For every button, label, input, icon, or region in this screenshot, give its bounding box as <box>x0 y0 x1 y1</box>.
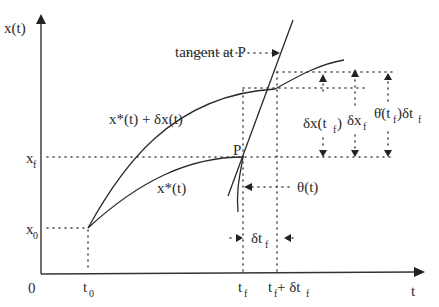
svg-text:δt: δt <box>251 230 263 246</box>
svg-text:θ̇(t: θ̇(t <box>374 105 391 122</box>
dx-tf-down-arrow-icon <box>319 150 327 157</box>
y-axis-label: x(t) <box>4 20 26 37</box>
svg-text:)δt: )δt <box>397 105 414 122</box>
svg-text:δx(t: δx(t <box>303 115 328 132</box>
perturbed-curve <box>88 60 344 228</box>
svg-text:t: t <box>83 279 88 295</box>
svg-text:0: 0 <box>89 288 94 299</box>
tick-tf: t f <box>238 279 248 299</box>
svg-text:t: t <box>268 279 273 295</box>
dxf-down-arrow-icon <box>351 150 359 157</box>
point-p-label: P <box>233 142 241 158</box>
tangent-label: tangent at P <box>175 44 246 60</box>
tangent-arrow-icon <box>272 49 280 57</box>
origin-label: 0 <box>28 280 36 296</box>
x-axis-arrow-icon <box>414 267 425 277</box>
svg-text:+ δt: + δt <box>277 279 301 295</box>
dtf-left-arrow-icon <box>236 234 243 242</box>
tick-x0: x 0 <box>26 221 38 241</box>
theta-dot-label: θ̇(t f )δt f <box>374 105 422 125</box>
svg-text:f: f <box>33 159 37 170</box>
x-axis <box>41 272 416 274</box>
dx-tf-up-arrow-icon <box>319 74 327 82</box>
svg-text:f: f <box>363 121 367 132</box>
svg-text:f: f <box>244 288 248 299</box>
svg-text:f: f <box>306 288 310 299</box>
theta-arrow-icon <box>244 183 252 191</box>
tick-t0: t 0 <box>83 279 94 299</box>
tick-xf: x f <box>26 150 37 170</box>
svg-text:f: f <box>265 239 269 250</box>
theta-dot-up-arrow-icon <box>384 73 392 80</box>
svg-text:f: f <box>418 114 422 125</box>
tick-tf-plus-delta: t f + δt f <box>268 279 310 299</box>
delta-x-tf-label: δx(t f ) <box>303 115 342 135</box>
optimal-curve-label: x*(t) <box>157 180 186 197</box>
theta-label: θ(t) <box>297 179 318 196</box>
svg-text:): ) <box>337 115 342 132</box>
theta-dot-down-arrow-icon <box>384 150 392 157</box>
perturbed-curve-label: x*(t) + δx(t) <box>109 111 183 128</box>
extended-optimal-curve <box>237 157 243 212</box>
svg-text:t: t <box>238 279 243 295</box>
delta-tf-label: δt f <box>251 230 269 250</box>
y-axis-arrow-icon <box>36 14 46 24</box>
svg-text:δx: δx <box>347 112 362 128</box>
variational-diagram: x(t) t 0 t 0 t f t f + δt f x 0 x f <box>0 0 439 307</box>
dtf-right-arrow-icon <box>284 234 291 242</box>
dxf-up-arrow-icon <box>351 69 359 77</box>
delta-xf-label: δx f <box>347 112 367 132</box>
svg-text:0: 0 <box>33 230 38 241</box>
x-axis-label: t <box>411 283 416 299</box>
